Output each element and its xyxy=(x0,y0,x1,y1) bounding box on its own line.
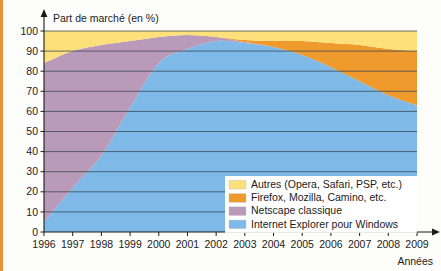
x-tick-label-2005: 2005 xyxy=(291,238,315,250)
x-tick-label-2003: 2003 xyxy=(233,238,257,250)
y-tick-label-20: 20 xyxy=(26,185,38,197)
chart-legend: Autres (Opera, Safari, PSP, etc.)Firefox… xyxy=(225,176,417,233)
x-axis-title: Années xyxy=(397,255,433,267)
figure-frame: 0102030405060708090100 19961997199819992… xyxy=(0,0,441,271)
x-tick-label-1998: 1998 xyxy=(90,238,114,250)
y-tick-label-10: 10 xyxy=(26,206,38,218)
x-tick-label-2008: 2008 xyxy=(377,238,401,250)
y-tick-label-90: 90 xyxy=(26,45,38,57)
legend-swatch-2 xyxy=(229,207,246,216)
y-tick-label-80: 80 xyxy=(26,65,38,77)
y-tick-label-60: 60 xyxy=(26,105,38,117)
x-axis-arrow-icon xyxy=(432,229,440,236)
y-axis-arrow-icon xyxy=(41,9,48,17)
y-tick-label-70: 70 xyxy=(26,85,38,97)
y-axis-title: Part de marché (en %) xyxy=(53,12,159,24)
x-tick-label-2004: 2004 xyxy=(262,238,286,250)
legend-label-3: Internet Explorer pour Windows xyxy=(251,218,398,230)
x-tick-label-1999: 1999 xyxy=(118,238,142,250)
y-tick-label-0: 0 xyxy=(32,226,38,238)
chart-canvas: 0102030405060708090100 19961997199819992… xyxy=(3,0,441,271)
x-tick-label-2000: 2000 xyxy=(147,238,171,250)
y-tick-label-40: 40 xyxy=(26,145,38,157)
x-tick-label-2002: 2002 xyxy=(204,238,228,250)
x-tick-label-1997: 1997 xyxy=(61,238,85,250)
y-axis-tick-labels: 0102030405060708090100 xyxy=(20,25,44,238)
x-tick-label-2007: 2007 xyxy=(348,238,372,250)
legend-swatch-3 xyxy=(229,220,246,229)
y-tick-label-30: 30 xyxy=(26,165,38,177)
x-tick-label-2001: 2001 xyxy=(176,238,200,250)
legend-swatch-0 xyxy=(229,181,246,190)
y-tick-label-50: 50 xyxy=(26,125,38,137)
x-tick-label-2009: 2009 xyxy=(405,238,429,250)
legend-label-2: Netscape classique xyxy=(251,204,342,216)
legend-label-1: Firefox, Mozilla, Camino, etc. xyxy=(251,191,386,203)
y-tick-label-100: 100 xyxy=(20,25,38,37)
x-tick-label-2006: 2006 xyxy=(319,238,343,250)
x-axis-tick-labels: 1996199719981999200020012002200320042005… xyxy=(32,232,429,250)
x-tick-label-1996: 1996 xyxy=(32,238,56,250)
market-share-area-chart: 0102030405060708090100 19961997199819992… xyxy=(3,0,441,271)
legend-label-0: Autres (Opera, Safari, PSP, etc.) xyxy=(251,178,402,190)
legend-swatch-1 xyxy=(229,194,246,203)
